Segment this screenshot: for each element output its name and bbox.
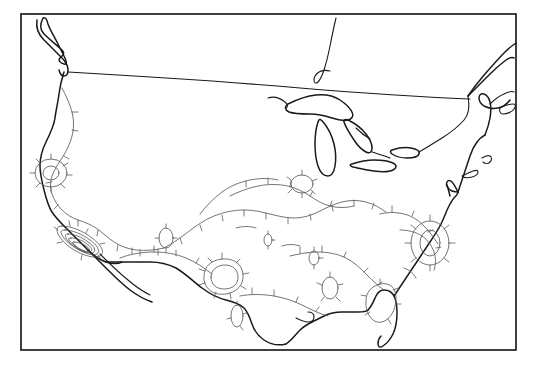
lake-huron <box>344 120 372 153</box>
hachure-group-plains <box>180 200 374 244</box>
contour-segment-ozark <box>282 245 300 247</box>
contour-map-figure <box>0 0 536 366</box>
northeast-coastline <box>458 135 485 192</box>
cape-cod <box>482 156 492 164</box>
florida-peninsula-coastline <box>368 290 397 347</box>
contour-southwest-band <box>120 252 212 274</box>
atlantic-coastline <box>394 192 458 296</box>
bay-of-fundy <box>490 92 514 104</box>
gulf-of-california <box>100 254 150 295</box>
closed-contour-texas-low <box>199 253 249 299</box>
hachure-group-southwest <box>132 246 199 263</box>
contour-northern-plains <box>164 201 386 249</box>
us-mexico-border <box>106 262 286 345</box>
hudson-bay-lobe <box>314 18 336 83</box>
canada-border-line <box>68 72 470 99</box>
lake-michigan <box>315 119 336 176</box>
contour-appalachian-band <box>380 213 438 245</box>
great-lakes-connector <box>372 152 390 158</box>
lake-superior <box>285 95 352 121</box>
closed-contour-florida <box>361 279 401 324</box>
chesapeake-bay <box>447 185 450 196</box>
map-frame <box>21 14 516 350</box>
hachure-group-gulf <box>252 288 319 311</box>
closed-contour-northern-plains-oval <box>287 170 317 198</box>
contour-east-coast-band <box>400 230 436 270</box>
closed-contour-gulf-coast-small <box>227 301 247 330</box>
hachure-group-west <box>46 112 158 256</box>
contour-southeast-band <box>290 252 384 290</box>
contour-gulf-band <box>240 295 328 317</box>
pacific-coastline <box>40 72 122 264</box>
closed-contour-lower-mississippi-small <box>309 247 323 269</box>
contour-segment-midplains <box>236 227 256 229</box>
map-canvas <box>0 0 536 366</box>
gulf-coastline <box>286 310 368 344</box>
nova-scotia <box>500 104 516 114</box>
closed-contour-pacific-northwest-low <box>30 154 72 192</box>
northwoods-coastline <box>268 97 287 108</box>
closed-contour-central-plains-small <box>264 231 275 249</box>
closed-contour-great-basin-small <box>155 224 177 252</box>
contour-great-plains-upper <box>200 179 278 215</box>
closed-contour-mid-south-oval <box>317 272 343 301</box>
lake-erie <box>350 160 396 172</box>
mississippi-delta <box>296 312 314 322</box>
st-lawrence-river <box>419 96 469 152</box>
lake-ontario <box>391 148 420 158</box>
gaspe-peninsula <box>468 58 514 96</box>
contour-west-outer <box>51 88 165 250</box>
